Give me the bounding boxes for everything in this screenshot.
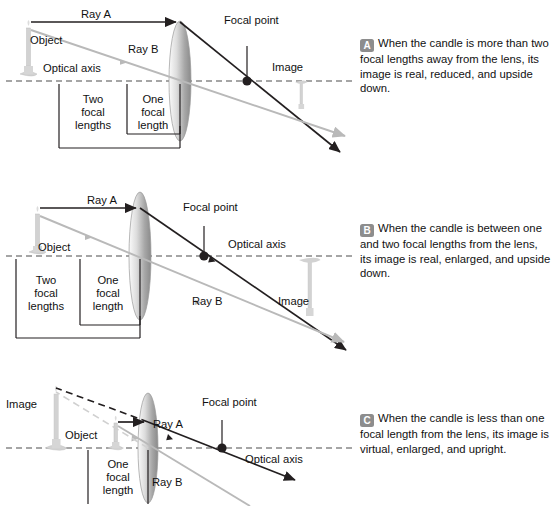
- ray-diagram-a: Object Ray A Ray B Optical axis Focal po…: [0, 0, 360, 180]
- one-focal-length-line2-a: focal: [141, 106, 165, 118]
- virtual-ray-a-extension-c: [56, 388, 148, 422]
- ray-diagram-b: Object Ray A Ray B Optical axis Focal po…: [0, 190, 360, 375]
- panel-text-c: When the candle is less than one focal l…: [360, 412, 549, 455]
- focal-point-label-c: Focal point: [202, 396, 258, 408]
- image-candle-a: [295, 81, 308, 110]
- one-focal-length-line2-b: focal: [96, 287, 120, 299]
- object-candle-c: [108, 416, 123, 450]
- one-focal-length-line2-c: focal: [106, 471, 130, 483]
- two-focal-lengths-line2-a: focal: [81, 106, 105, 118]
- panel-badge-b: B: [360, 224, 374, 237]
- optical-axis-label-a: Optical axis: [43, 62, 101, 74]
- ray-b-label-b: Ray B: [192, 295, 222, 307]
- panel-badge-c: C: [360, 414, 374, 427]
- object-candle-a: [20, 20, 37, 76]
- panel-text-b: When the candle is between one and two f…: [360, 222, 550, 279]
- figure-canvas: Object Ray A Ray B Optical axis Focal po…: [0, 0, 554, 506]
- one-focal-length-line3-c: length: [103, 484, 133, 496]
- panel-text-a: When the candle is more than two focal l…: [360, 37, 549, 94]
- one-focal-length-line3-a: length: [138, 119, 168, 131]
- image-label-b: Image: [278, 295, 309, 307]
- caption-panel-b: BWhen the candle is between one and two …: [360, 221, 552, 281]
- one-focal-length-line1-a: One: [142, 93, 163, 105]
- ray-a-refracted-a: [180, 22, 340, 152]
- image-candle-c: [45, 386, 67, 451]
- panel-badge-a: A: [360, 39, 374, 52]
- two-focal-lengths-line2-b: focal: [34, 287, 58, 299]
- focal-point-label-b: Focal point: [183, 201, 239, 213]
- object-label-c: Object: [65, 429, 98, 441]
- ray-b-b: [40, 216, 344, 342]
- object-label-b: Object: [38, 241, 71, 253]
- ray-b-label-a: Ray B: [128, 43, 158, 55]
- two-focal-lengths-line1-b: Two: [36, 274, 57, 286]
- caption-panel-a: AWhen the candle is more than two focal …: [360, 36, 552, 96]
- ray-diagram-c: Image Object Ray A Ray B Optical axis Fo…: [0, 386, 360, 506]
- image-label-a: Image: [272, 61, 303, 73]
- ray-a-label-c: Ray A: [153, 418, 183, 430]
- image-label-c: Image: [6, 398, 37, 410]
- one-focal-length-line1-b: One: [97, 274, 118, 286]
- ray-a-label-b: Ray A: [87, 194, 117, 206]
- focal-point-label-line1-a: Focal point: [224, 14, 280, 26]
- two-focal-lengths-line1-a: Two: [83, 93, 104, 105]
- object-label-a: Object: [30, 34, 63, 46]
- two-focal-lengths-line3-b: lengths: [28, 300, 64, 312]
- one-focal-length-line3-b: length: [93, 300, 123, 312]
- ray-a-refracted-b: [140, 208, 346, 350]
- ray-a-label-a: Ray A: [81, 8, 111, 20]
- optical-axis-label-b: Optical axis: [228, 238, 286, 250]
- optical-axis-label-c: Optical axis: [245, 453, 303, 465]
- image-candle-b: [299, 258, 321, 316]
- caption-panel-c: CWhen the candle is less than one focal …: [360, 411, 552, 456]
- ray-a-arrowhead-mid-c: [166, 434, 173, 440]
- one-focal-length-line1-c: One: [107, 458, 128, 470]
- two-focal-lengths-line3-a: lengths: [75, 119, 111, 131]
- ray-b-label-c: Ray B: [152, 476, 182, 488]
